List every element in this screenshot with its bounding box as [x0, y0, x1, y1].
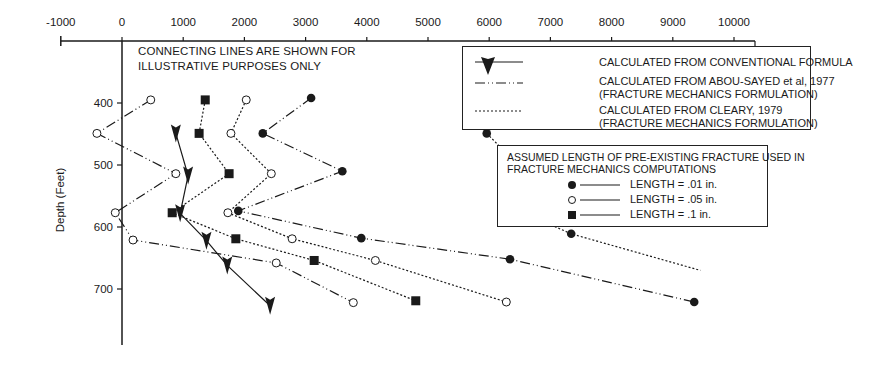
- x-tick-label: 1000: [170, 16, 196, 28]
- method-legend-swatches: [463, 47, 583, 129]
- x-tick-label: 5000: [415, 16, 441, 28]
- filled-circle-marker: [506, 255, 515, 264]
- method-legend: CALCULATED FROM CONVENTIONAL FORMULA CAL…: [462, 46, 811, 130]
- legend-cleary: CALCULATED FROM CLEARY, 1979: [599, 104, 782, 117]
- x-tick-label: 7000: [538, 16, 564, 28]
- arrowhead-marker: [265, 297, 275, 315]
- open-circle-marker: [502, 298, 510, 306]
- x-tick-label: 2000: [232, 16, 258, 28]
- filled-circle-icon: [568, 181, 576, 189]
- legend2-title-line1: ASSUMED LENGTH OF PRE-EXISTING FRACTURE …: [507, 151, 805, 163]
- x-tick-label: 9000: [660, 16, 686, 28]
- open-circle-marker: [129, 236, 137, 244]
- note-line-1: CONNECTING LINES ARE SHOWN FOR: [138, 44, 356, 59]
- filled-circle-marker: [307, 94, 316, 103]
- filled-circle-marker: [690, 298, 699, 307]
- filled-square-marker: [195, 129, 204, 138]
- x-tick-label: -1000: [46, 16, 75, 28]
- y-tick-label: 500: [94, 159, 113, 171]
- series-line: [97, 100, 353, 303]
- open-circle-marker: [371, 256, 379, 264]
- filled-square-marker: [411, 296, 420, 305]
- x-tick-label: 3000: [293, 16, 319, 28]
- open-circle-marker: [242, 96, 250, 104]
- open-circle-marker: [272, 259, 280, 267]
- open-circle-marker: [147, 96, 155, 104]
- legend2-title: ASSUMED LENGTH OF PRE-EXISTING FRACTURE …: [507, 151, 805, 175]
- open-circle-marker: [224, 209, 232, 217]
- open-circle-marker: [267, 170, 275, 178]
- filled-circle-marker: [357, 234, 366, 243]
- legend-abou-sayed-sub: (FRACTURE MECHANICS FORMULATION): [599, 88, 818, 101]
- filled-square-marker: [231, 234, 240, 243]
- x-tick-label: 4000: [354, 16, 380, 28]
- filled-square-marker: [310, 256, 319, 265]
- x-tick-label: 10000: [718, 16, 750, 28]
- series-line: [228, 100, 506, 302]
- y-tick-label: 600: [94, 221, 113, 233]
- y-tick-label: 400: [94, 97, 113, 109]
- filled-circle-marker: [567, 230, 576, 239]
- series-line: [172, 100, 416, 301]
- filled-circle-marker: [482, 129, 491, 138]
- legend-cleary-sub: (FRACTURE MECHANICS FORMULATION): [599, 117, 818, 130]
- filled-square-marker: [168, 208, 177, 217]
- open-circle-marker: [227, 129, 235, 137]
- arrowhead-marker: [222, 256, 232, 274]
- illustrative-note: CONNECTING LINES ARE SHOWN FOR ILLUSTRAT…: [138, 44, 356, 74]
- arrowhead-marker: [201, 232, 211, 250]
- note-line-2: ILLUSTRATIVE PURPOSES ONLY: [138, 59, 356, 74]
- open-circle-marker: [172, 170, 180, 178]
- filled-square-marker: [201, 95, 210, 104]
- open-circle-marker: [111, 209, 119, 217]
- x-tick-label: 0: [119, 16, 125, 28]
- arrowhead-marker-icon: [481, 57, 495, 75]
- filled-circle-marker: [258, 129, 267, 138]
- filled-circle-marker: [338, 167, 347, 176]
- y-tick-label: 700: [94, 283, 113, 295]
- open-circle-marker: [93, 129, 101, 137]
- legend-conventional: CALCULATED FROM CONVENTIONAL FORMULA: [599, 56, 853, 69]
- x-tick-label: 6000: [476, 16, 502, 28]
- open-circle-icon: [569, 197, 576, 204]
- y-axis-label: Depth (Feet): [54, 168, 66, 233]
- open-circle-marker: [349, 299, 357, 307]
- depth-chart: -100001000200030004000500060007000800090…: [0, 0, 875, 366]
- arrowhead-marker: [183, 167, 193, 185]
- arrowhead-marker: [171, 124, 181, 142]
- x-tick-label: 8000: [599, 16, 625, 28]
- legend2-title-line2: FRACTURE MECHANICS COMPUTATIONS: [507, 163, 805, 175]
- filled-circle-marker: [234, 207, 243, 216]
- legend-abou-sayed: CALCULATED FROM ABOU-SAYED et al, 1977: [599, 75, 835, 88]
- fracture-length-legend: ASSUMED LENGTH OF PRE-EXISTING FRACTURE …: [497, 145, 768, 227]
- filled-square-marker: [225, 169, 234, 178]
- open-circle-marker: [288, 235, 296, 243]
- filled-square-icon: [568, 211, 576, 219]
